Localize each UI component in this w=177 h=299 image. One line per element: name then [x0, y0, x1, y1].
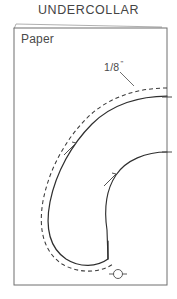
paper-fold-edge-line [16, 24, 162, 27]
pattern-diagram-page: UNDERCOLLAR Paper 1/8" [0, 0, 177, 299]
seam-allowance-value: 1/8 [104, 61, 120, 73]
paper-label: Paper [21, 32, 54, 46]
seam-allowance-unit: " [121, 59, 124, 68]
paper-sheet-frame [14, 28, 167, 285]
center-mark-circle [114, 270, 123, 279]
seam-allowance-dimension-label: 1/8" [104, 59, 124, 73]
